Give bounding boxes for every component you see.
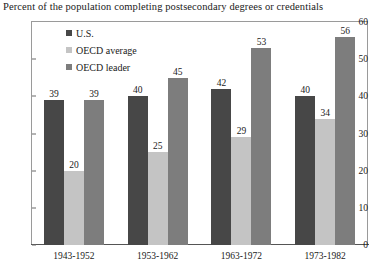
bar-column: 56 [335,22,355,245]
y-tick-label: 0 [363,240,368,250]
bar-column: 40 [295,22,315,245]
bar [84,100,104,245]
chart-title: Percent of the population completing pos… [3,0,323,13]
y-tick-label: 30 [359,129,369,139]
legend-swatch-icon [66,30,72,36]
bar [211,89,231,245]
bar-group: 403456 [283,22,367,245]
bar-value-label: 25 [153,141,163,151]
y-tick-label: 60 [359,17,369,27]
y-tick-mark [32,170,36,171]
x-category-label: 1943-1952 [53,251,94,261]
legend-swatch-icon [66,64,72,70]
bar-column: 29 [231,22,251,245]
x-category-label: 1973-1982 [305,251,346,261]
legend-label: U.S. [76,28,94,39]
legend-label: OECD leader [76,62,130,73]
y-tick-mark [32,59,36,60]
bar [64,171,84,245]
bar [44,100,64,245]
chart-legend: U.S.OECD averageOECD leader [66,26,137,77]
y-tick-mark [32,96,36,97]
y-tick-label: 50 [359,54,369,64]
bar [251,48,271,245]
x-category-label: 1953-1962 [137,251,178,261]
bar-value-label: 40 [300,85,310,95]
legend-item: U.S. [66,26,137,40]
legend-label: OECD average [76,45,137,56]
y-tick-label: 40 [359,91,369,101]
bar [148,152,168,245]
x-category-label: 1963-1972 [221,251,262,261]
legend-swatch-icon [66,47,72,53]
y-axis [0,0,31,274]
bar-column: 45 [168,22,188,245]
bar-group: 422953 [200,22,284,245]
bar-chart: Percent of the population completing pos… [0,0,376,274]
y-tick-mark [32,133,36,134]
y-tick-label: 10 [359,203,369,213]
bar-value-label: 39 [49,89,59,99]
legend-item: OECD average [66,43,137,57]
bar-value-label: 40 [133,85,143,95]
y-tick-mark [32,207,36,208]
bar-value-label: 39 [89,89,99,99]
bar-value-label: 20 [69,160,79,170]
y-tick-mark [32,245,36,246]
y-tick-label: 20 [359,166,369,176]
bar-value-label: 34 [320,108,330,118]
bar-column: 53 [251,22,271,245]
bar-value-label: 53 [257,37,267,47]
bar-value-label: 29 [237,126,247,136]
bar-value-label: 45 [173,67,183,77]
bar [168,78,188,245]
bar-column: 25 [148,22,168,245]
legend-item: OECD leader [66,60,137,74]
bar-column: 39 [44,22,64,245]
bar-column: 34 [315,22,335,245]
bar [231,137,251,245]
bar [295,96,315,245]
bar [315,119,335,245]
bar-value-label: 42 [217,78,227,88]
bar-value-label: 56 [340,26,350,36]
bar [128,96,148,245]
bar [335,37,355,245]
bar-column: 42 [211,22,231,245]
